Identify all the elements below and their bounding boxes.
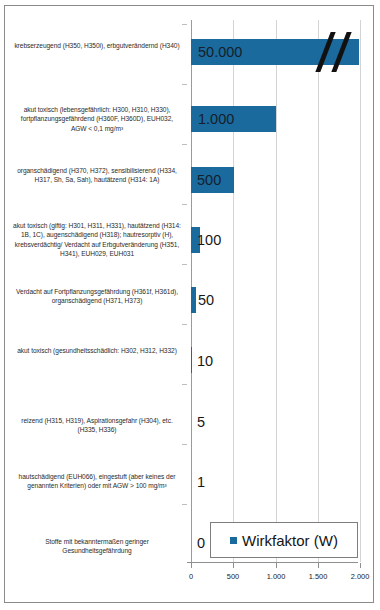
x-tick-label-2000: 2.000 [340,572,380,581]
x-axis-tick [360,563,361,568]
y-axis-tick [182,84,187,85]
category-label: Stoffe mit bekanntermaßen geringer Gesun… [13,537,181,556]
gridline-500 [233,20,234,562]
legend-label-wirkfaktor: Wirkfaktor (W) [242,533,338,548]
chart-frame: krebserzeugend (H350, H350i), erbgutverä… [4,5,374,603]
category-label: krebserzeugend (H350, H350i), erbgutverä… [13,41,181,50]
category-label: hautschädigend (EUH066), eingestuft (abe… [13,472,181,491]
bar-value-label: 50.000 [198,45,242,60]
y-axis-tick [182,504,187,505]
legend-swatch-wirkfaktor [230,537,237,544]
y-axis-tick [182,324,187,325]
y-axis-tick [182,264,187,265]
bar-value-label: 500 [197,173,221,188]
category-label: akut toxisch (lebensgefährlich: H300, H3… [13,105,181,133]
bar-10[interactable] [191,347,192,373]
y-axis-tick [182,444,187,445]
x-axis-tick [276,563,277,568]
bar-value-label: 5 [197,415,205,430]
gridline-1500 [318,20,319,562]
category-label: Verdacht auf Fortpflanzungsgefährdung (H… [13,287,181,306]
y-axis-tick [182,204,187,205]
bar-value-label: 1.000 [198,112,234,127]
gridline-1000 [276,20,277,562]
x-axis-tick [318,563,319,568]
bar-value-label: 10 [197,354,213,369]
category-label: akut toxisch (gesundheitsschädlich: H302… [13,346,181,355]
x-tick-label-1000: 1.000 [256,572,296,581]
x-tick-label-1500: 1.500 [298,572,338,581]
x-axis-tick [191,563,192,568]
bar-value-label: 50 [198,293,214,308]
y-axis-tick [182,144,187,145]
x-axis-line [187,562,358,563]
y-axis-tick [182,24,187,25]
category-label: akut toxisch (giftig: H301, H311, H331),… [13,221,181,259]
category-label: reizend (H315, H319), Aspirationsgefahr … [13,416,181,435]
bar-value-label: 1 [197,475,205,490]
bar-value-label: 100 [197,233,221,248]
x-tick-label-500: 500 [213,572,253,581]
bar-50[interactable] [191,287,196,313]
category-label: organschädigend (H370, H372), sensibilis… [13,166,181,185]
x-tick-label-0: 0 [171,572,211,581]
x-axis-tick [233,563,234,568]
plot-area [187,20,357,562]
gridline-2000 [360,20,361,562]
legend[interactable]: Wirkfaktor (W) [210,522,358,558]
y-axis-tick [182,384,187,385]
axis-break-icon [321,32,355,72]
bar-value-label: 0 [197,536,205,551]
